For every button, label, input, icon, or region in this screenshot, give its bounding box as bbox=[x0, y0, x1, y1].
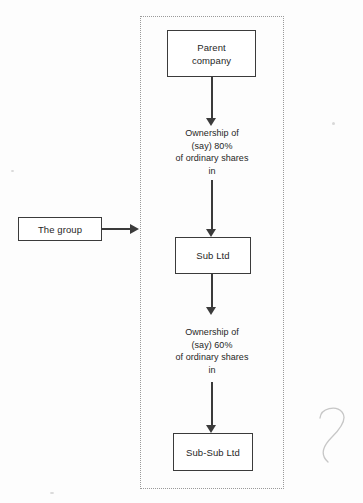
connector-sub-to-label2 bbox=[211, 274, 213, 309]
node-parent-company-line1: Parent bbox=[192, 41, 231, 54]
diagram-canvas: Parent company Ownership of (say) 80% of… bbox=[0, 0, 363, 503]
node-parent-company[interactable]: Parent company bbox=[167, 30, 256, 77]
paper-speck bbox=[332, 122, 335, 125]
connector-label2-to-subsub bbox=[211, 382, 213, 427]
edge-label-2-line1: Ownership of bbox=[140, 326, 284, 339]
edge-label-parent-to-sub: Ownership of (say) 80% of ordinary share… bbox=[140, 127, 284, 177]
arrow-down-icon-1 bbox=[206, 118, 216, 126]
edge-label-2-line2: (say) 60% bbox=[140, 339, 284, 352]
edge-label-2-line3: of ordinary shares bbox=[140, 351, 284, 364]
edge-label-2-line4: in bbox=[140, 364, 284, 377]
node-the-group[interactable]: The group bbox=[18, 217, 102, 241]
arrow-down-icon-4 bbox=[206, 425, 216, 433]
arrow-right-icon bbox=[130, 224, 139, 234]
edge-label-1-line3: of ordinary shares bbox=[140, 152, 284, 165]
paper-speck bbox=[50, 492, 54, 494]
paper-speck bbox=[11, 170, 14, 172]
edge-label-1-line2: (say) 80% bbox=[140, 140, 284, 153]
node-sub-ltd-label: Sub Ltd bbox=[196, 249, 229, 262]
node-sub-sub-ltd-label: Sub-Sub Ltd bbox=[186, 446, 240, 459]
arrow-down-icon-2 bbox=[206, 229, 216, 237]
pencil-curl-mark bbox=[316, 404, 350, 468]
edge-label-1-line1: Ownership of bbox=[140, 127, 284, 140]
arrow-down-icon-3 bbox=[206, 307, 216, 315]
connector-group-to-boundary bbox=[102, 228, 132, 230]
connector-parent-to-label1 bbox=[211, 77, 213, 120]
node-the-group-label: The group bbox=[38, 223, 82, 236]
edge-label-1-line4: in bbox=[140, 165, 284, 178]
edge-label-sub-to-subsub: Ownership of (say) 60% of ordinary share… bbox=[140, 326, 284, 376]
node-parent-company-line2: company bbox=[192, 54, 231, 67]
node-sub-sub-ltd[interactable]: Sub-Sub Ltd bbox=[173, 433, 253, 471]
node-sub-ltd[interactable]: Sub Ltd bbox=[175, 237, 251, 274]
connector-label1-to-sub bbox=[211, 180, 213, 231]
